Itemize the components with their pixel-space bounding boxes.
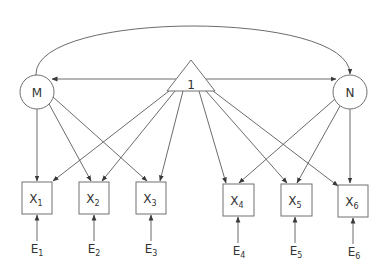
observed-node-x3: X3 bbox=[136, 182, 166, 214]
latent-label-n: N bbox=[346, 86, 355, 100]
constant-label: 1 bbox=[187, 78, 195, 92]
error-label-e3: E3 bbox=[145, 242, 158, 258]
edge-one-to-x6 bbox=[213, 91, 338, 186]
edge-one-to-x1 bbox=[53, 91, 169, 181]
observed-node-x4: X4 bbox=[223, 184, 254, 216]
error-label-e6: E6 bbox=[348, 245, 361, 261]
latent-node-m: M bbox=[20, 75, 54, 109]
error-label-e4: E4 bbox=[233, 244, 246, 260]
latent-label-m: M bbox=[32, 86, 42, 100]
observed-node-x5: X5 bbox=[281, 184, 312, 216]
error-label-e1: E1 bbox=[31, 242, 44, 258]
edge-m-to-x2 bbox=[49, 104, 91, 181]
error-label-e2: E2 bbox=[88, 242, 101, 258]
observed-node-x2: X2 bbox=[79, 182, 109, 214]
diagram-svg: 1 M N X1 X2 X3 X4 X5 X6 E1 E2 E3 E4 E5 E… bbox=[0, 0, 386, 274]
edge-one-to-x2 bbox=[102, 91, 175, 181]
constant-node: 1 bbox=[167, 60, 215, 92]
edge-m-to-x3 bbox=[53, 97, 147, 181]
edge-one-to-x3 bbox=[160, 91, 183, 181]
observed-node-x6: X6 bbox=[338, 185, 368, 217]
latent-node-n: N bbox=[333, 75, 367, 109]
error-label-e5: E5 bbox=[290, 244, 303, 260]
sem-path-diagram: 1 M N X1 X2 X3 X4 X5 X6 E1 E2 E3 E4 E5 E… bbox=[0, 0, 386, 274]
edge-one-to-x4 bbox=[199, 91, 226, 183]
edge-one-to-x5 bbox=[206, 91, 287, 183]
observed-node-x1: X1 bbox=[22, 182, 52, 214]
